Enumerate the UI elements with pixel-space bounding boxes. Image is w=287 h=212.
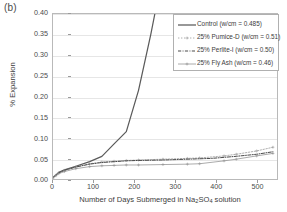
legend-line-swatch-icon bbox=[177, 59, 197, 69]
x-tick-label: 500 bbox=[242, 183, 272, 190]
legend-line-swatch-icon bbox=[177, 20, 197, 30]
x-tick-mark bbox=[93, 180, 94, 183]
x-axis-title: Number of Days Submerged in Na2SO4 solut… bbox=[40, 195, 280, 204]
x-tick-mark bbox=[175, 180, 176, 183]
x-axis-title-sub2: 4 bbox=[209, 198, 212, 204]
x-tick-label: 300 bbox=[160, 183, 190, 190]
legend: Control (w/cm = 0.485)25% Pumice-D (w/cm… bbox=[173, 14, 279, 71]
legend-line-swatch-icon bbox=[177, 46, 197, 56]
legend-item-label: 25% Pumice-D (w/cm = 0.51) bbox=[197, 34, 280, 40]
legend-item-label: 25% Fly Ash (w/cm = 0.46) bbox=[197, 60, 273, 66]
legend-item[interactable]: 25% Fly Ash (w/cm = 0.46) bbox=[177, 57, 276, 70]
x-tick-mark bbox=[257, 180, 258, 183]
legend-item[interactable]: 25% Pumice-D (w/cm = 0.51) bbox=[177, 31, 276, 44]
legend-line-swatch-icon bbox=[177, 33, 197, 43]
y-axis-title: % Expansion bbox=[8, 45, 17, 125]
figure-panel-b: (b) 0.000.050.100.150.200.250.300.350.40… bbox=[0, 0, 287, 212]
legend-item[interactable]: 25% Perlite-I (w/cm = 0.50) bbox=[177, 44, 276, 57]
x-tick-mark bbox=[134, 180, 135, 183]
x-axis-title-pre: Number of Days Submerged in Na bbox=[79, 195, 195, 204]
legend-item-label: Control (w/cm = 0.485) bbox=[197, 21, 262, 27]
x-tick-mark bbox=[52, 180, 53, 183]
legend-item[interactable]: Control (w/cm = 0.485) bbox=[177, 18, 276, 31]
legend-item-label: 25% Perlite-I (w/cm = 0.50) bbox=[197, 47, 274, 53]
x-tick-label: 100 bbox=[78, 183, 108, 190]
x-tick-label: 0 bbox=[37, 183, 67, 190]
x-tick-label: 400 bbox=[201, 183, 231, 190]
x-axis-title-sub1: 2 bbox=[195, 198, 198, 204]
x-tick-mark bbox=[216, 180, 217, 183]
x-axis-title-post: solution bbox=[213, 195, 241, 204]
x-axis-title-mid: SO bbox=[198, 195, 209, 204]
x-tick-label: 200 bbox=[119, 183, 149, 190]
